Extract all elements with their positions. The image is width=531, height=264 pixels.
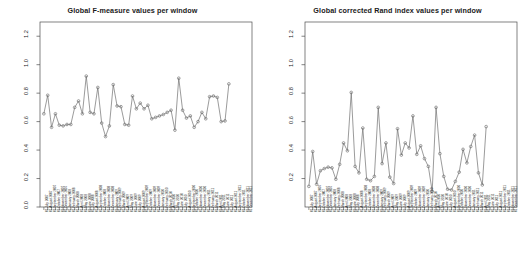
figure-container: Global F-measure values per window 0.00.…	[0, 0, 531, 264]
plot-area-rand-index	[265, 0, 530, 264]
data-line	[309, 92, 486, 191]
data-line	[44, 76, 229, 136]
plot-box	[305, 22, 517, 207]
plot-area-f-measure	[0, 0, 265, 264]
chart-panel-f-measure: Global F-measure values per window 0.00.…	[0, 0, 265, 264]
chart-panel-rand-index: Global corrected Rand index values per w…	[265, 0, 530, 264]
